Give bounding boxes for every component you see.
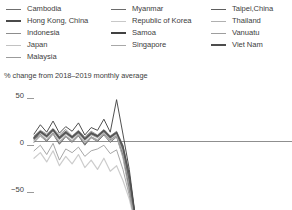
legend-swatch-line-icon bbox=[6, 45, 21, 46]
legend-item[interactable]: Vanuatu bbox=[211, 27, 273, 39]
legend-swatch-line-icon bbox=[6, 57, 21, 58]
legend-item[interactable]: Hong Kong, China bbox=[6, 15, 88, 27]
legend-item-label: Singapore bbox=[132, 40, 166, 50]
legend-swatch-line-icon bbox=[211, 21, 226, 22]
legend-swatch-line-icon bbox=[6, 20, 21, 22]
plot-area: 50 0 −50 bbox=[0, 86, 292, 210]
legend-swatch-line-icon bbox=[211, 9, 226, 10]
legend-item[interactable]: Malaysia bbox=[6, 51, 88, 63]
chart-subtitle: % change from 2018–2019 monthly average bbox=[4, 71, 148, 80]
legend-swatch-line-icon bbox=[6, 9, 21, 10]
legend-item[interactable]: Viet Nam bbox=[211, 39, 273, 51]
legend-item[interactable]: Japan bbox=[6, 39, 88, 51]
chart-lines-svg bbox=[0, 86, 292, 210]
legend-item-label: Hong Kong, China bbox=[27, 16, 88, 26]
legend-swatch-line-icon bbox=[111, 32, 126, 34]
legend-item-label: Thailand bbox=[232, 16, 261, 26]
legend-item[interactable]: Samoa bbox=[111, 27, 192, 39]
legend-item-label: Cambodia bbox=[27, 4, 61, 14]
legend-item-label: Myanmar bbox=[132, 4, 163, 14]
legend-column-1: CambodiaHong Kong, ChinaIndonesiaJapanMa… bbox=[6, 3, 88, 63]
legend-swatch-line-icon bbox=[111, 21, 126, 22]
legend-item[interactable]: Indonesia bbox=[6, 27, 88, 39]
legend-item-label: Taipei,China bbox=[232, 4, 273, 14]
legend-item-label: Samoa bbox=[132, 28, 156, 38]
legend-item[interactable]: Thailand bbox=[211, 15, 273, 27]
legend-swatch-line-icon bbox=[111, 45, 126, 46]
legend-item-label: Japan bbox=[27, 40, 47, 50]
series-line bbox=[34, 134, 142, 210]
legend-item-label: Malaysia bbox=[27, 52, 57, 62]
legend-column-3: Taipei,ChinaThailandVanuatuViet Nam bbox=[211, 3, 273, 51]
legend-swatch-line-icon bbox=[211, 33, 226, 34]
legend-item-label: Republic of Korea bbox=[132, 16, 192, 26]
series-line bbox=[34, 143, 142, 210]
legend-item-label: Indonesia bbox=[27, 28, 59, 38]
series-group bbox=[34, 100, 142, 210]
legend-swatch-line-icon bbox=[6, 33, 21, 34]
legend-item[interactable]: Myanmar bbox=[111, 3, 192, 15]
legend-item[interactable]: Cambodia bbox=[6, 3, 88, 15]
legend-item-label: Viet Nam bbox=[232, 40, 263, 50]
legend-item[interactable]: Singapore bbox=[111, 39, 192, 51]
legend-swatch-line-icon bbox=[111, 9, 126, 10]
legend-column-2: MyanmarRepublic of KoreaSamoaSingapore bbox=[111, 3, 192, 51]
legend-item[interactable]: Taipei,China bbox=[211, 3, 273, 15]
chart-legend: CambodiaHong Kong, ChinaIndonesiaJapanMa… bbox=[0, 0, 292, 66]
legend-swatch-line-icon bbox=[211, 44, 226, 46]
chart-figure: CambodiaHong Kong, ChinaIndonesiaJapanMa… bbox=[0, 0, 292, 210]
legend-item[interactable]: Republic of Korea bbox=[111, 15, 192, 27]
legend-item-label: Vanuatu bbox=[232, 28, 259, 38]
